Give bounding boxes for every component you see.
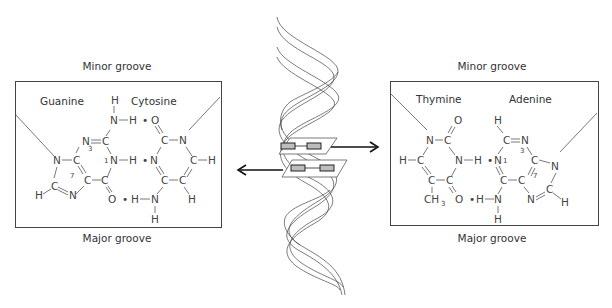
svg-text:H: H [35, 189, 43, 201]
svg-text:H: H [399, 154, 407, 166]
diagram-canvas: Guanine Cytosine H N H • O N C 3 1 N H •… [0, 0, 612, 308]
svg-text:N: N [69, 189, 77, 201]
svg-text:N: N [494, 154, 502, 166]
arrow-right-to-at-panel [331, 142, 378, 152]
svg-text:CH: CH [424, 193, 439, 205]
base-block [281, 143, 295, 149]
svg-text:C: C [428, 174, 435, 186]
svg-text:N: N [179, 134, 187, 146]
svg-text:N: N [150, 154, 158, 166]
svg-text:C: C [51, 180, 58, 192]
gc-base-pair: Guanine Cytosine H N H • O N C 3 1 N H •… [15, 94, 220, 225]
svg-text:C: C [546, 183, 553, 195]
svg-text:C: C [161, 134, 168, 146]
svg-text:H: H [151, 213, 159, 225]
svg-text:N: N [426, 134, 434, 146]
svg-text:•: • [122, 193, 128, 205]
svg-text:C: C [102, 135, 109, 147]
svg-text:C: C [444, 134, 451, 146]
svg-text:C: C [417, 154, 424, 166]
svg-text:H: H [208, 154, 216, 166]
base-block [291, 165, 305, 171]
backbone-line-right [189, 97, 220, 130]
svg-text:H: H [494, 213, 502, 225]
svg-text:N: N [151, 193, 159, 205]
svg-text:C: C [161, 174, 168, 186]
base-pair-slab-upper [279, 138, 337, 154]
svg-text:C: C [190, 154, 197, 166]
svg-text:N: N [110, 154, 118, 166]
svg-text:N: N [53, 154, 61, 166]
guanine-label: Guanine [40, 95, 84, 107]
svg-text:3: 3 [88, 145, 92, 153]
at-base-pair: Thymine Adenine O N C H C N H • C C CH 3… [390, 93, 597, 225]
svg-text:7: 7 [533, 172, 537, 180]
svg-text:C: C [84, 174, 91, 186]
svg-text:H: H [188, 193, 196, 205]
svg-text:C: C [503, 134, 510, 146]
svg-text:1: 1 [104, 157, 108, 165]
svg-text:H: H [129, 114, 137, 126]
backbone-line-right [560, 113, 597, 152]
svg-text:O: O [108, 193, 116, 205]
svg-text:C: C [531, 154, 538, 166]
svg-text:H: H [111, 94, 119, 106]
svg-text:C: C [73, 154, 80, 166]
svg-text:C: C [179, 174, 186, 186]
svg-text:•: • [142, 114, 148, 126]
svg-text:•: • [142, 154, 148, 166]
svg-text:3: 3 [441, 200, 445, 208]
svg-text:•: • [469, 193, 475, 205]
svg-text:•: • [487, 154, 493, 166]
arrow-left-to-gc-panel [238, 165, 283, 175]
svg-text:C: C [446, 174, 453, 186]
svg-text:H: H [129, 154, 137, 166]
svg-text:C: C [500, 174, 507, 186]
svg-text:N: N [455, 154, 463, 166]
thymine-label: Thymine [415, 93, 462, 105]
svg-text:O: O [151, 114, 159, 126]
svg-text:N: N [521, 134, 529, 146]
svg-text:H: H [131, 193, 139, 205]
adenine-label: Adenine [509, 93, 552, 105]
svg-text:H: H [494, 114, 502, 126]
double-helix [277, 17, 345, 295]
svg-text:N: N [551, 160, 559, 172]
backbone-line-left [15, 114, 54, 156]
svg-text:O: O [454, 114, 462, 126]
base-pair-slab-lower [282, 160, 347, 177]
svg-text:H: H [476, 193, 484, 205]
svg-text:1: 1 [503, 157, 507, 165]
svg-text:N: N [110, 114, 118, 126]
svg-text:7: 7 [70, 172, 74, 180]
svg-text:C: C [518, 174, 525, 186]
svg-text:N: N [527, 193, 535, 205]
svg-text:O: O [455, 193, 463, 205]
cytosine-label: Cytosine [131, 95, 177, 107]
svg-text:C: C [101, 174, 108, 186]
svg-text:N: N [494, 193, 502, 205]
svg-text:3: 3 [520, 147, 524, 155]
base-block [320, 165, 334, 171]
svg-text:H: H [561, 196, 569, 208]
base-block [307, 143, 321, 149]
svg-text:H: H [474, 154, 482, 166]
